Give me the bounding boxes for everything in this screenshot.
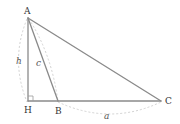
vertex-label-H: H <box>24 105 32 115</box>
vertex-label-C: C <box>165 96 172 106</box>
triangle-diagram: A H B C h c a <box>0 0 180 124</box>
measure-label-a: a <box>104 111 109 121</box>
measure-label-c: c <box>36 58 41 68</box>
segment-side-AB <box>28 18 58 101</box>
vertex-label-A: A <box>23 6 31 16</box>
dimension-arc-a <box>58 102 161 114</box>
measure-label-h: h <box>16 56 22 66</box>
right-angle-marker <box>28 96 33 101</box>
vertex-label-B: B <box>55 106 62 116</box>
